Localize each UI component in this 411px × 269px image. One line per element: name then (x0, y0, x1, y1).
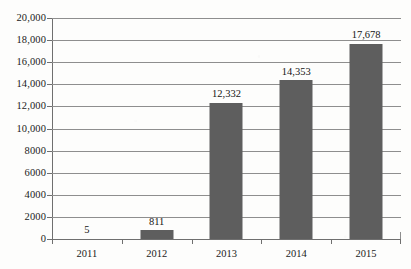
x-axis-category-label: 2011 (52, 249, 122, 260)
y-axis-tick-label: 8000 (0, 146, 46, 157)
bar[interactable] (350, 44, 383, 239)
y-axis-tick-label: 20,000 (0, 13, 46, 24)
y-axis-tick-label: 10,000 (0, 124, 46, 135)
x-axis-category-label: 2013 (192, 249, 262, 260)
y-axis-tick-label: 14,000 (0, 79, 46, 90)
y-axis-tick-label: 16,000 (0, 57, 46, 68)
bar[interactable] (140, 230, 173, 239)
bar[interactable] (280, 80, 313, 239)
x-axis-tick-mark (331, 239, 332, 244)
bar-slot: 14,353 (261, 18, 331, 239)
bar-value-label: 5 (84, 225, 89, 236)
plot-area: 581112,33214,35317,678 (52, 18, 401, 239)
x-axis-category-label: 2015 (331, 249, 401, 260)
y-axis-tick-label: 4000 (0, 190, 46, 201)
y-axis-tick-label: 2000 (0, 212, 46, 223)
bar-slot: 5 (52, 18, 122, 239)
bar-value-label: 811 (149, 217, 164, 228)
y-axis-tick-label: 6000 (0, 168, 46, 179)
bar-slot: 811 (122, 18, 192, 239)
bar-value-label: 14,353 (282, 67, 311, 78)
x-axis: 20112012201320142015 (52, 239, 401, 269)
bar-slot: 12,332 (192, 18, 262, 239)
bar-value-label: 17,678 (352, 30, 381, 41)
y-axis-tick-label: 12,000 (0, 101, 46, 112)
x-axis-tick-mark (400, 239, 401, 244)
x-axis-category-label: 2014 (261, 249, 331, 260)
x-axis-tick-mark (122, 239, 123, 244)
x-axis-category-label: 2012 (122, 249, 192, 260)
bar-chart-figure: 20,000 18,000 16,000 14,000 12,000 10,00… (0, 0, 411, 269)
x-axis-tick-mark (261, 239, 262, 244)
y-axis-tick-label: 18,000 (0, 35, 46, 46)
bar[interactable] (210, 103, 243, 239)
bar-value-label: 12,332 (212, 89, 241, 100)
x-axis-tick-mark (52, 239, 53, 244)
y-axis-tick-label: 0 (0, 234, 46, 245)
y-axis-tick-labels: 20,000 18,000 16,000 14,000 12,000 10,00… (0, 0, 46, 269)
bar-slot: 17,678 (331, 18, 401, 239)
x-axis-tick-mark (192, 239, 193, 244)
